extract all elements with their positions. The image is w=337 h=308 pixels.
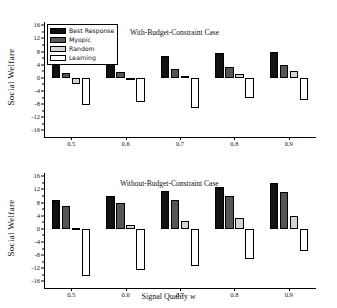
legend-item-learning: Learning [50,54,114,62]
y-axis-line-top [44,22,45,137]
y-tick-minor-mark [42,248,44,249]
bar-best-response [106,196,115,229]
y-tick-minor-mark [42,45,44,46]
bar-best-response [270,52,279,78]
bar-random [72,228,81,230]
y-axis-title-top: Social Welfare [3,2,19,152]
y-tick-mark [41,202,44,203]
bar-learning [300,229,309,251]
y-axis-title-bottom: Social Welfare [3,153,19,303]
bar-learning [82,229,91,276]
y-tick-mark [41,268,44,269]
bar-myopic [116,72,125,78]
y-tick-minor-mark [42,274,44,275]
bar-myopic [62,206,71,229]
legend-label-learning: Learning [69,55,96,61]
y-tick-minor-mark [42,31,44,32]
x-tick-label: 0.6 [122,141,130,148]
x-tick-label: 0.5 [67,141,75,148]
bar-best-response [52,200,61,229]
y-tick-minor-mark [42,261,44,262]
bar-myopic [62,73,71,78]
legend-item-random: Random [50,45,114,53]
y-tick-minor-mark [42,97,44,98]
legend-swatch-random [50,46,66,53]
bar-random [126,225,135,229]
legend-label-random: Random [69,46,95,52]
y-tick-minor-mark [42,222,44,223]
bar-learning [300,78,309,100]
bar-random [290,71,299,78]
bar-myopic [171,69,180,78]
x-axis-title-symbol: w [190,292,195,301]
bar-learning [245,78,254,98]
bar-best-response [215,187,224,229]
y-tick-minor-mark [42,58,44,59]
plot-area-bottom: 1612840-4-8-12-160.50.60.70.80.9 [44,173,316,288]
bar-learning [191,78,200,109]
bar-learning [82,78,91,105]
bar-learning [191,229,200,266]
y-tick-mark [41,51,44,52]
y-tick-minor-mark [42,71,44,72]
y-tick-minor-mark [42,209,44,210]
y-tick-minor-mark [42,182,44,183]
bar-best-response [215,53,224,78]
y-tick-mark [41,64,44,65]
y-tick-minor-mark [42,110,44,111]
legend-item-myopic: Myopic [50,36,114,44]
bar-myopic [116,203,125,229]
figure-social-welfare: Social Welfare With-Budget-Constraint Ca… [0,0,337,308]
y-tick-mark [41,77,44,78]
bar-best-response [270,183,279,229]
y-tick-mark [41,91,44,92]
legend-label-myopic: Myopic [69,37,91,43]
bar-random [235,74,244,78]
legend-swatch-best-response [50,28,66,35]
y-tick-minor-mark [42,84,44,85]
bar-random [72,78,81,85]
legend-swatch-myopic [50,37,66,44]
y-tick-minor-mark [42,235,44,236]
x-axis-title: Signal Quality w [0,292,337,301]
bar-random [181,76,190,78]
y-tick-mark [41,281,44,282]
y-axis-line-bottom [44,173,45,288]
y-tick-mark [41,255,44,256]
bar-myopic [171,200,180,229]
y-tick-mark [41,176,44,177]
legend-label-best-response: Best Response [69,28,114,34]
y-tick-mark [41,104,44,105]
bar-myopic [280,65,289,78]
y-tick-mark [41,130,44,131]
bar-random [181,221,190,229]
x-tick-label: 0.9 [285,141,293,148]
bar-random [126,78,135,81]
bar-random [235,218,244,229]
bar-learning [245,229,254,259]
y-tick-mark [41,117,44,118]
bar-myopic [280,192,289,229]
bar-myopic [225,67,234,78]
y-tick-mark [41,242,44,243]
bar-random [290,216,299,228]
legend: Best Response Myopic Random Learning [47,24,118,65]
panel-with-budget-constraint: Social Welfare With-Budget-Constraint Ca… [0,2,337,152]
y-tick-minor-mark [42,123,44,124]
y-tick-mark [41,38,44,39]
y-tick-minor-mark [42,196,44,197]
x-tick-label: 0.8 [230,141,238,148]
y-tick-mark [41,215,44,216]
bar-learning [136,229,145,270]
bar-learning [136,78,145,103]
legend-item-best-response: Best Response [50,27,114,35]
bar-myopic [225,196,234,229]
y-tick-mark [41,189,44,190]
panel-without-budget-constraint: Social Welfare Without-Budget-Constraint… [0,153,337,303]
y-tick-mark [41,25,44,26]
y-tick-mark [41,228,44,229]
x-tick-label: 0.7 [176,141,184,148]
legend-swatch-learning [50,55,66,62]
bar-best-response [161,56,170,78]
bar-best-response [161,191,170,229]
